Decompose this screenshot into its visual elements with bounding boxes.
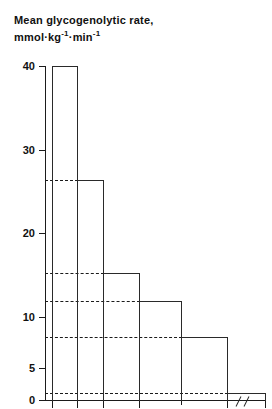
x-tick-1 (52, 400, 53, 408)
axis-break-slash-right (244, 396, 250, 406)
y-tick-label-40: 40 (5, 60, 35, 72)
chart-plot-area: 0 5 10 20 30 40 (0, 0, 272, 409)
dashed-reference-26 (45, 180, 78, 181)
x-tick-2 (77, 400, 78, 408)
dashed-reference-8 (45, 337, 182, 338)
bar-1-right-edge (77, 66, 78, 401)
bar-1-top (52, 66, 78, 67)
x-tick-7 (265, 400, 266, 408)
bar-6-right-edge (265, 393, 266, 401)
y-tick-label-20: 20 (5, 227, 35, 239)
bar-5-right-edge (227, 337, 228, 401)
x-tick-6 (227, 400, 228, 408)
y-tick-label-30: 30 (5, 144, 35, 156)
dashed-reference-1 (45, 393, 228, 394)
y-tick-label-10: 10 (5, 311, 35, 323)
y-tick-20 (39, 233, 46, 234)
x-axis-line (45, 400, 265, 401)
y-tick-5 (39, 368, 46, 369)
bar-2-right-edge (103, 180, 104, 401)
y-tick-40 (39, 66, 46, 67)
bar-6-top (227, 393, 266, 394)
bar-1-left-edge (52, 66, 53, 401)
y-tick-0 (39, 400, 46, 401)
bar-3-top (103, 273, 140, 274)
bar-4-top (139, 301, 182, 302)
bar-2-top (77, 180, 104, 181)
dashed-reference-12 (45, 301, 140, 302)
x-tick-4 (139, 400, 140, 408)
dashed-reference-15 (45, 273, 104, 274)
y-tick-label-0: 0 (5, 394, 35, 406)
x-tick-3 (103, 400, 104, 408)
axis-break-slash-left (236, 396, 242, 406)
bar-4-right-edge (181, 301, 182, 401)
bar-5-top (181, 337, 228, 338)
y-tick-30 (39, 150, 46, 151)
y-tick-label-5: 5 (5, 362, 35, 374)
bar-3-right-edge (139, 273, 140, 401)
y-tick-10 (39, 317, 46, 318)
